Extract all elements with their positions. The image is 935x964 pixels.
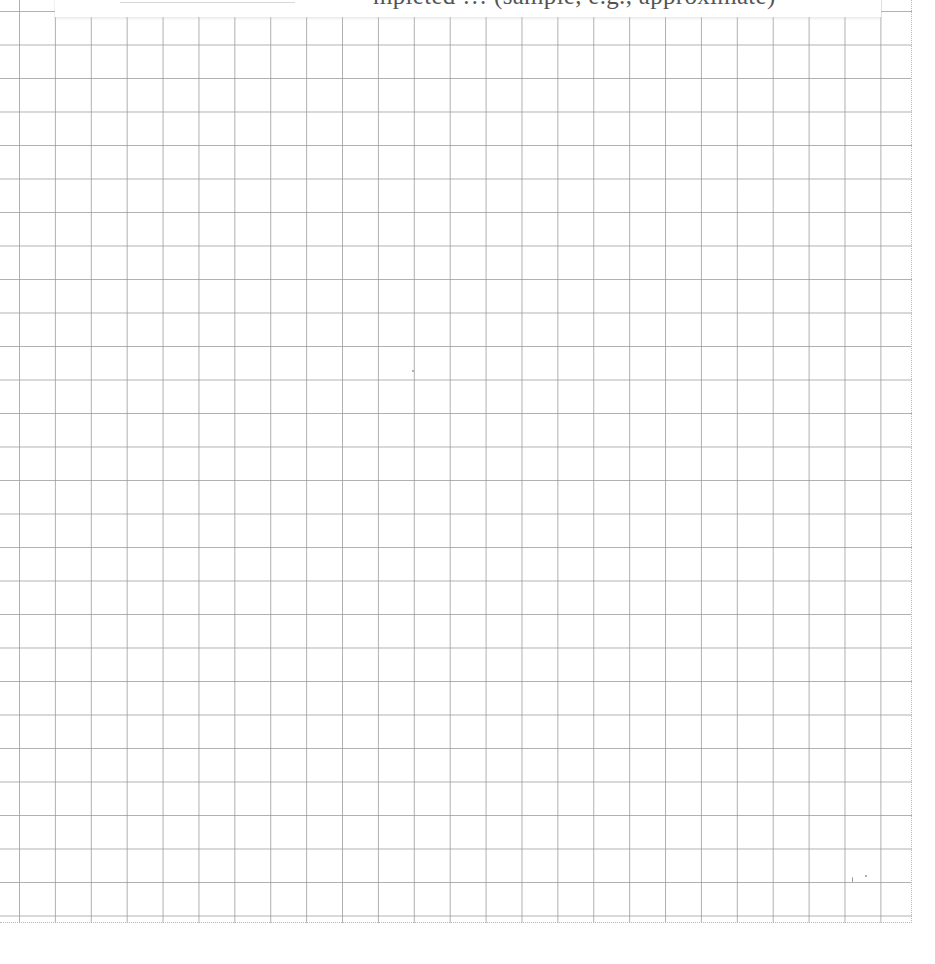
graph-paper-grid: mpleted … (sample, e.g., approximate) — [0, 0, 912, 923]
header-strip: mpleted … (sample, e.g., approximate) — [55, 0, 881, 17]
stray-mark — [852, 877, 853, 882]
stray-mark — [865, 875, 867, 877]
name-blank-line — [120, 2, 295, 3]
stray-mark — [412, 370, 414, 372]
instructions-text-cropped: mpleted … (sample, e.g., approximate) — [373, 0, 776, 11]
